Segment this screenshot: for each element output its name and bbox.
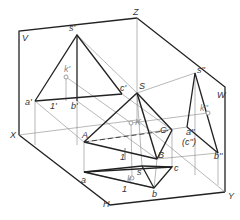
label-a-front: a' [25, 98, 32, 107]
label-a-top: a [81, 176, 86, 185]
label-z-axis: Z [133, 8, 139, 17]
label-k-space: K [135, 118, 141, 127]
label-v-plane: V [22, 34, 28, 43]
label-c-front: c' [120, 84, 126, 93]
label-x-axis: X [10, 131, 16, 140]
projection-diagram: V H H W Z X Y s' k' a' 1' b' c' S K A C … [0, 0, 240, 220]
label-s-space: S [139, 82, 145, 91]
label-s-top: s [137, 168, 142, 177]
label-c-space: C [160, 126, 167, 135]
label-w-plane: W [217, 91, 226, 100]
label-1-front: 1' [50, 102, 57, 111]
label-k-top: k [127, 175, 132, 184]
label-h-plane: H [103, 200, 110, 209]
label-1-space: 1 [120, 153, 125, 162]
front-view-pyramid [35, 35, 122, 101]
label-c-top: c [174, 164, 179, 173]
label-b-space: B [158, 151, 164, 160]
label-c-side: (c'') [182, 138, 196, 147]
label-k-front: k' [64, 65, 70, 74]
label-b-top: b [152, 190, 157, 199]
projection-planes [19, 18, 225, 205]
label-s-front: s' [69, 24, 75, 33]
label-b-side: b'' [214, 152, 222, 161]
label-s-side: s'' [197, 66, 205, 75]
label-b-front: b' [71, 102, 78, 111]
label-a-side: a'' [186, 128, 194, 137]
label-1-top: 1 [122, 185, 127, 194]
label-k-side: k'' [200, 104, 208, 113]
label-y-axis: Y [228, 192, 234, 201]
label-a-space: A [82, 131, 88, 140]
